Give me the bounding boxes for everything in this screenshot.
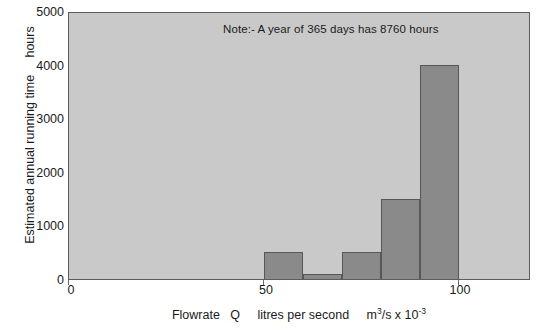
y-axis-tick-labels: 5000 4000 3000 2000 1000 0	[10, 0, 64, 332]
x-axis-title-unit-secondary: m3/s x 10-3	[367, 308, 427, 322]
unit-power-exponent: -3	[418, 306, 426, 316]
bar-60-70	[303, 274, 342, 279]
x-tick-label-50: 50	[259, 283, 273, 297]
y-axis-title: Estimated annual running time hours	[23, 1, 37, 269]
bar-90-100	[420, 65, 459, 279]
bar-50-60	[264, 252, 303, 279]
y-tick-label-0: 0	[18, 273, 64, 287]
unit-per-second: /s x 10	[382, 308, 419, 322]
x-tick-label-100: 100	[450, 283, 471, 297]
bar-series	[69, 13, 529, 279]
x-axis-title: Flowrate Q litres per second m3/s x 10-3	[68, 306, 530, 322]
unit-m: m	[367, 308, 377, 322]
x-tick-label-0: 0	[68, 283, 75, 297]
chart-figure: 5000 4000 3000 2000 1000 0 Note:- A year…	[0, 0, 541, 332]
bar-70-80	[342, 252, 381, 279]
plot-area: Note:- A year of 365 days has 8760 hours	[68, 12, 530, 280]
chart-annotation-note: Note:- A year of 365 days has 8760 hours	[223, 23, 439, 35]
x-axis-title-quantity: Flowrate Q	[172, 308, 240, 322]
bar-80-90	[381, 199, 420, 279]
x-axis-title-unit-primary: litres per second	[257, 308, 349, 322]
